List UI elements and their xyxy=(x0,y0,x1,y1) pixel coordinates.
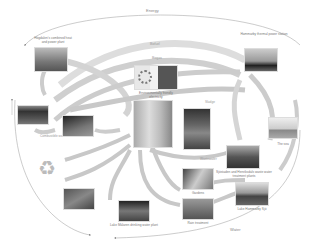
sea-photo xyxy=(268,117,298,139)
node-label: The sea xyxy=(268,142,298,146)
residential-building-photo xyxy=(133,100,173,148)
flow-label: Biogas xyxy=(152,56,162,60)
flow-label: Biofuel xyxy=(150,42,160,46)
rain-photo xyxy=(182,198,214,220)
gardens-photo xyxy=(182,168,214,190)
treatment-plant-photo xyxy=(226,145,260,169)
thermal-plant-photo xyxy=(244,48,278,72)
flow-label: Sludge xyxy=(205,100,215,104)
recycle-icon: ♻ xyxy=(38,158,56,178)
sun-icon xyxy=(138,70,152,84)
node-label: Environmentally friendly electricity xyxy=(134,91,178,99)
node-label: Lake Mälaren drinking water plant xyxy=(105,223,163,227)
env-electricity-photo xyxy=(134,65,178,90)
node-label: Rain treatment xyxy=(182,221,214,225)
harbor-photo xyxy=(17,105,49,125)
energy-label: Energy xyxy=(146,8,159,13)
node-label: Hammarby thermal power station xyxy=(240,32,288,36)
field-photo xyxy=(62,115,94,137)
water-label: Water xyxy=(230,227,241,232)
node-label: Högdalen's combined heat and power plant xyxy=(33,36,73,44)
flow-label: Wastewater xyxy=(200,157,217,161)
node-label: Sjöstaden and Henriksdals waste water tr… xyxy=(216,170,272,178)
node-label: Gardens xyxy=(182,191,214,195)
cogen-photo xyxy=(34,47,68,72)
biogas-bus-photo xyxy=(183,108,211,150)
drinking-water-plant-photo xyxy=(118,200,150,222)
node-label: Lake Hammarby Sjö xyxy=(232,207,272,211)
lake-photo xyxy=(235,182,269,206)
landfill-photo xyxy=(63,188,95,210)
